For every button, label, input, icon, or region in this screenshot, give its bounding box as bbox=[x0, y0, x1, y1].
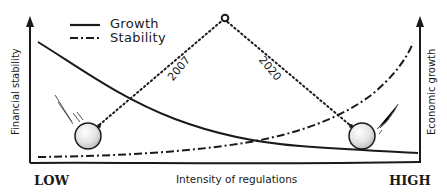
pendulum-pivot-icon bbox=[222, 15, 229, 22]
left-axis-label: Financial stability bbox=[10, 48, 21, 135]
x-axis bbox=[30, 162, 420, 163]
right-axis-arrow-icon bbox=[416, 16, 424, 27]
left-ball-icon bbox=[55, 95, 101, 149]
x-axis-label: Intensity of regulations bbox=[176, 173, 297, 185]
right-ball-icon bbox=[349, 104, 398, 149]
left-axis-arrow-icon bbox=[26, 16, 34, 27]
right-axis-label: Economic growth bbox=[426, 49, 437, 135]
pendulum-string-right bbox=[224, 19, 351, 126]
left-axis bbox=[26, 16, 34, 163]
regulation-pendulum-diagram bbox=[0, 0, 447, 194]
x-axis-low-label: LOW bbox=[34, 173, 69, 188]
x-axis-high-label: HIGH bbox=[389, 173, 431, 188]
legend-growth-label: Growth bbox=[110, 16, 159, 31]
right-axis bbox=[416, 16, 424, 163]
legend-stability-label: Stability bbox=[110, 30, 166, 45]
